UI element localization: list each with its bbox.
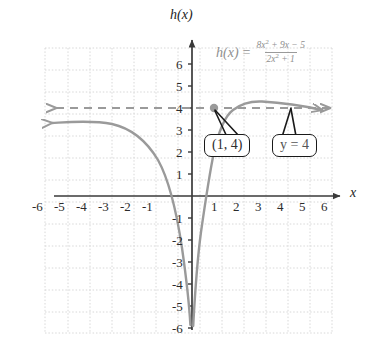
- plot-canvas: [0, 0, 373, 351]
- y-axis-title: h(x): [170, 8, 193, 22]
- callout-asymptote: y = 4: [272, 134, 317, 157]
- x-tick-4: 4: [277, 200, 284, 213]
- y-tick-neg5: -5: [172, 300, 183, 313]
- function-equation: h(x) = 8x2 + 9x − 5 2x2 + 1: [216, 40, 307, 65]
- x-tick-5: 5: [299, 200, 306, 213]
- equation-equals: =: [243, 46, 251, 60]
- y-tick-5: 5: [176, 80, 183, 93]
- x-tick-neg3: -3: [98, 200, 109, 213]
- y-tick-4: 4: [176, 102, 183, 115]
- x-tick-2: 2: [233, 200, 240, 213]
- x-tick-neg2: -2: [120, 200, 131, 213]
- x-tick-3: 3: [255, 200, 262, 213]
- y-tick-neg1: -1: [172, 212, 183, 225]
- y-tick-1: 1: [176, 168, 183, 181]
- equation-numerator: 8x2 + 9x − 5: [254, 40, 306, 52]
- numerator-term-b: + 9x − 5: [269, 40, 305, 50]
- equation-lhs: h(x): [216, 46, 239, 60]
- y-tick-2: 2: [176, 146, 183, 159]
- y-tick-neg4: -4: [172, 278, 183, 291]
- x-tick-6: 6: [321, 200, 328, 213]
- y-tick-6: 6: [176, 58, 183, 71]
- equation-fraction: 8x2 + 9x − 5 2x2 + 1: [254, 40, 306, 65]
- x-axis-title: x: [350, 186, 356, 200]
- y-tick-3: 3: [176, 124, 183, 137]
- denominator-term-b: + 1: [279, 54, 295, 64]
- curve-left-branch: [52, 122, 190, 325]
- x-tick-neg6: -6: [32, 200, 43, 213]
- x-tick-1: 1: [211, 200, 218, 213]
- callout-point: (1, 4): [204, 134, 250, 157]
- equation-denominator: 2x2 + 1: [265, 52, 297, 65]
- y-tick-neg3: -3: [172, 256, 183, 269]
- y-tick-neg2: -2: [172, 234, 183, 247]
- graph-figure: h(x) = 8x2 + 9x − 5 2x2 + 1 h(x) x 6 5 4…: [0, 0, 373, 351]
- x-tick-neg1: -1: [142, 200, 153, 213]
- x-tick-neg4: -4: [76, 200, 87, 213]
- y-tick-neg6: -6: [172, 322, 183, 335]
- x-tick-neg5: -5: [54, 200, 65, 213]
